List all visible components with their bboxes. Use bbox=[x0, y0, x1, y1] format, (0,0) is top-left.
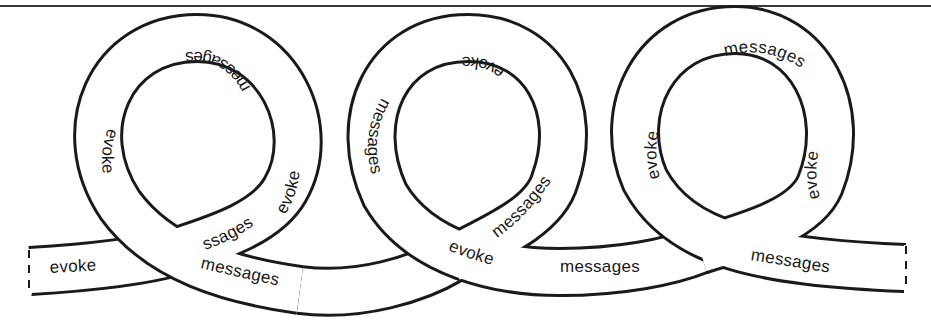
band-loop-3 bbox=[635, 30, 905, 268]
ribbon-diagram: evoke messages evoke evoke ssages messag… bbox=[0, 0, 931, 321]
band-loop-2 bbox=[372, 38, 563, 272]
label-between-2-3: messages bbox=[560, 257, 640, 276]
label-tail-left: evoke bbox=[49, 255, 97, 277]
